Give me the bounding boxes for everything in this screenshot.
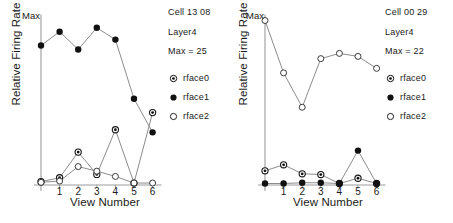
chart-panel-left: Max Relative Firing Rate View Number Cel… (0, 0, 226, 223)
legend-label-rface1: rface1 (183, 93, 209, 102)
legend-item-rface2: rface2 (385, 112, 428, 121)
legend-item-rface0: rface0 (168, 74, 211, 83)
figure-container: Max Relative Firing Rate View Number Cel… (0, 0, 453, 223)
x-axis-tick-label: 3 (90, 186, 104, 197)
legend-cell-id: Cell 00 29 (385, 8, 428, 17)
legend-max-value: Max = 25 (168, 47, 211, 56)
legend-cell-id: Cell 13 08 (168, 8, 211, 17)
x-axis-tick-label: 1 (277, 186, 291, 197)
legend-left: Cell 13 08 Layer4 Max = 25 rface0 (168, 8, 211, 131)
legend-label-rface0: rface0 (400, 74, 426, 83)
bullseye-marker-icon (168, 74, 179, 83)
legend-item-rface2: rface2 (168, 112, 211, 121)
filled-circle-marker-icon (385, 93, 396, 102)
legend-label-rface1: rface1 (400, 93, 426, 102)
legend-right: Cell 00 29 Layer4 Max = 22 rface0 (385, 8, 428, 131)
bullseye-marker-icon (385, 74, 396, 83)
x-axis-tick-label: 1 (53, 186, 67, 197)
y-axis-max-tick-label: Max (22, 10, 40, 21)
legend-label-rface0: rface0 (183, 74, 209, 83)
x-axis-tick-label: 5 (351, 186, 365, 197)
x-axis-title: View Number (0, 196, 218, 208)
x-axis-tick-label: 3 (314, 186, 328, 197)
y-axis-title: Relative Firing Rate (10, 0, 22, 114)
filled-circle-marker-icon (168, 93, 179, 102)
legend-item-rface1: rface1 (168, 93, 211, 102)
x-axis-tick-label: 4 (108, 186, 122, 197)
open-circle-marker-icon (168, 112, 179, 121)
legend-item-rface1: rface1 (385, 93, 428, 102)
x-axis-tick-label: 4 (332, 186, 346, 197)
legend-max-value: Max = 22 (385, 47, 428, 56)
legend-label-rface2: rface2 (183, 112, 209, 121)
x-axis-tick-label: 2 (71, 186, 85, 197)
legend-item-rface0: rface0 (385, 74, 428, 83)
chart-panel-right: Max Relative Firing Rate View Number Cel… (227, 0, 453, 223)
x-axis-tick-label: 6 (370, 186, 384, 197)
x-axis-tick-label: 2 (295, 186, 309, 197)
legend-label-rface2: rface2 (400, 112, 426, 121)
x-axis-tick-label: 5 (127, 186, 141, 197)
x-axis-tick-label: 6 (146, 186, 160, 197)
legend-layer: Layer4 (168, 28, 211, 37)
x-axis-title: View Number (215, 196, 441, 208)
legend-layer: Layer4 (385, 28, 428, 37)
y-axis-title: Relative Firing Rate (237, 0, 249, 114)
open-circle-marker-icon (385, 112, 396, 121)
